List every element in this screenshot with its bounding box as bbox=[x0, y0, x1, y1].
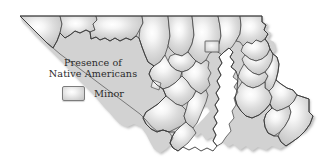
legend-title-line1: Presence of bbox=[64, 57, 122, 68]
map-figure: Presence of Native Americans Minor bbox=[0, 0, 323, 163]
legend-title: Presence of Native Americans bbox=[38, 57, 148, 79]
legend-swatch-minor bbox=[62, 86, 85, 101]
county-baltimore-city bbox=[205, 41, 219, 52]
map-legend: Presence of Native Americans Minor bbox=[38, 57, 148, 101]
legend-label-minor: Minor bbox=[94, 88, 124, 100]
legend-title-line2: Native Americans bbox=[38, 68, 148, 79]
legend-entry-minor: Minor bbox=[38, 86, 148, 101]
